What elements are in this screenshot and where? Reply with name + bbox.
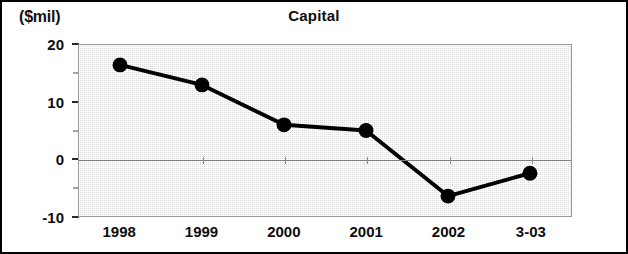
data-point-marker: [277, 117, 292, 132]
data-point-marker: [195, 77, 210, 92]
series-line: [120, 65, 530, 196]
x-axis-tick-label: 2000: [239, 223, 329, 240]
data-point-marker: [359, 123, 374, 138]
x-axis-inner-tick-mark: [367, 157, 368, 164]
y-axis-tick-label: 0: [4, 151, 64, 168]
x-axis-tick-label: 2002: [404, 223, 494, 240]
chart-title: Capital: [2, 7, 626, 24]
x-axis-inner-tick-mark: [450, 157, 451, 164]
y-axis-tick-label: -10: [4, 209, 64, 226]
y-axis-tick-label: 20: [4, 36, 64, 53]
chart-figure: ($mil) Capital 20100-10 1998199920002001…: [0, 0, 628, 254]
x-axis-tick-label: 1998: [74, 223, 164, 240]
x-axis-tick-label: 3-03: [486, 223, 576, 240]
x-axis-inner-tick-mark: [532, 157, 533, 164]
data-point-marker: [441, 189, 456, 204]
y-axis-tick-label: 10: [4, 93, 64, 110]
x-axis-tick-label: 1999: [157, 223, 247, 240]
x-axis-inner-tick-mark: [203, 157, 204, 164]
x-axis-inner-tick-mark: [285, 157, 286, 164]
data-point-marker: [523, 166, 538, 181]
line-series: [79, 45, 571, 216]
zero-reference-line: [79, 160, 571, 161]
plot-area: [78, 44, 572, 217]
x-axis-tick-label: 2001: [321, 223, 411, 240]
data-point-marker: [113, 58, 128, 73]
